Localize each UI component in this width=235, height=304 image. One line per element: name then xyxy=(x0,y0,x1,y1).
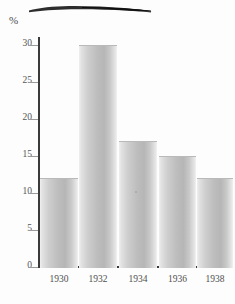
x-label-1938: 1938 xyxy=(197,274,233,284)
bar-1930[interactable] xyxy=(40,178,78,268)
x-label-1930: 1930 xyxy=(40,274,78,284)
x-label-1934: 1934 xyxy=(119,274,157,284)
bars-layer xyxy=(0,0,235,304)
x-label-1932: 1932 xyxy=(79,274,117,284)
paper-speck xyxy=(135,191,137,193)
bar-1936[interactable] xyxy=(159,156,196,268)
x-label-1936: 1936 xyxy=(159,274,196,284)
bar-1938[interactable] xyxy=(197,178,233,268)
bar-1934[interactable] xyxy=(119,141,157,268)
bar-1932[interactable] xyxy=(79,45,117,268)
bar-chart: % 30 25 20 15 10 5 0 1930 1932 xyxy=(0,0,235,304)
